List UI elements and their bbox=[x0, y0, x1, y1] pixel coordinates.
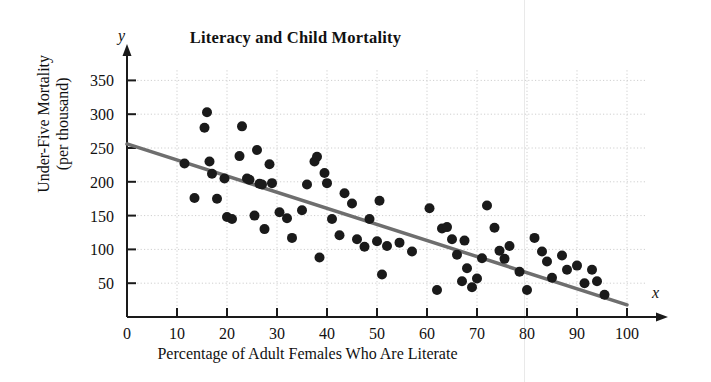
data-point bbox=[600, 290, 610, 300]
data-point bbox=[260, 224, 270, 234]
data-point bbox=[190, 193, 200, 203]
data-point bbox=[547, 273, 557, 283]
data-point bbox=[425, 203, 435, 213]
data-point bbox=[265, 159, 275, 169]
svg-text:200: 200 bbox=[90, 174, 114, 191]
data-point bbox=[472, 273, 482, 283]
svg-text:0: 0 bbox=[123, 325, 131, 342]
data-point bbox=[500, 254, 510, 264]
data-point bbox=[257, 180, 267, 190]
data-point bbox=[490, 223, 500, 233]
data-point bbox=[562, 265, 572, 275]
data-point bbox=[462, 263, 472, 273]
gridlines bbox=[127, 70, 645, 317]
data-point bbox=[227, 214, 237, 224]
data-point bbox=[252, 145, 262, 155]
svg-text:250: 250 bbox=[90, 140, 114, 157]
data-point bbox=[340, 188, 350, 198]
data-point bbox=[432, 285, 442, 295]
scatter-plot-canvas: 5010015020025030035001020304050607080901… bbox=[0, 0, 711, 382]
svg-text:100: 100 bbox=[615, 325, 639, 342]
svg-text:90: 90 bbox=[569, 325, 585, 342]
data-point bbox=[572, 261, 582, 271]
data-point bbox=[360, 242, 370, 252]
data-point bbox=[200, 123, 210, 133]
data-point bbox=[452, 250, 462, 260]
data-point bbox=[592, 276, 602, 286]
data-point bbox=[287, 233, 297, 243]
data-point bbox=[352, 234, 362, 244]
svg-text:20: 20 bbox=[219, 325, 235, 342]
svg-text:350: 350 bbox=[90, 72, 114, 89]
svg-text:70: 70 bbox=[469, 325, 485, 342]
svg-text:150: 150 bbox=[90, 208, 114, 225]
data-point bbox=[522, 285, 532, 295]
data-point bbox=[322, 178, 332, 188]
data-point bbox=[205, 157, 215, 167]
data-point bbox=[312, 152, 322, 162]
svg-text:30: 30 bbox=[269, 325, 285, 342]
data-point bbox=[212, 194, 222, 204]
svg-text:100: 100 bbox=[90, 241, 114, 258]
svg-text:40: 40 bbox=[319, 325, 335, 342]
data-point bbox=[580, 278, 590, 288]
data-point bbox=[315, 253, 325, 263]
data-point bbox=[557, 250, 567, 260]
data-point bbox=[447, 234, 457, 244]
data-point bbox=[505, 241, 515, 251]
data-point bbox=[202, 107, 212, 117]
data-point bbox=[382, 241, 392, 251]
data-point bbox=[220, 173, 230, 183]
data-point bbox=[320, 168, 330, 178]
data-point bbox=[467, 282, 477, 292]
svg-text:300: 300 bbox=[90, 106, 114, 123]
data-point bbox=[587, 265, 597, 275]
data-point bbox=[542, 257, 552, 267]
data-point bbox=[347, 198, 357, 208]
data-point bbox=[537, 246, 547, 256]
data-point bbox=[297, 205, 307, 215]
data-point bbox=[395, 238, 405, 248]
data-point bbox=[365, 214, 375, 224]
data-point bbox=[530, 233, 540, 243]
axis-tick-labels: 5010015020025030035001020304050607080901… bbox=[90, 72, 639, 342]
data-point bbox=[250, 211, 260, 221]
data-point bbox=[457, 276, 467, 286]
svg-text:50: 50 bbox=[98, 275, 114, 292]
data-point bbox=[335, 230, 345, 240]
data-point bbox=[267, 178, 277, 188]
data-point bbox=[327, 214, 337, 224]
data-point bbox=[180, 159, 190, 169]
svg-text:80: 80 bbox=[519, 325, 535, 342]
data-point bbox=[460, 236, 470, 246]
svg-text:50: 50 bbox=[369, 325, 385, 342]
data-point bbox=[207, 169, 217, 179]
chart-figure: Literacy and Child Mortality Under-Five … bbox=[0, 0, 711, 382]
data-point bbox=[377, 269, 387, 279]
data-point bbox=[302, 180, 312, 190]
data-point bbox=[245, 175, 255, 185]
data-point bbox=[482, 200, 492, 210]
data-point bbox=[375, 196, 385, 206]
data-point bbox=[442, 222, 452, 232]
data-point bbox=[477, 253, 487, 263]
data-points bbox=[180, 107, 610, 300]
data-point bbox=[282, 213, 292, 223]
data-point bbox=[235, 151, 245, 161]
data-point bbox=[237, 121, 247, 131]
data-point bbox=[515, 267, 525, 277]
svg-text:10: 10 bbox=[169, 325, 185, 342]
svg-text:60: 60 bbox=[419, 325, 435, 342]
data-point bbox=[407, 246, 417, 256]
data-point bbox=[372, 236, 382, 246]
